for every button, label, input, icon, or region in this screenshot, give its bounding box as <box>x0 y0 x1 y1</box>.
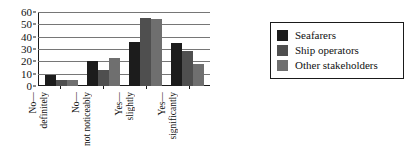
bar <box>87 61 98 86</box>
legend-item: Seafarers <box>277 28 397 43</box>
y-axis-tick-mark <box>33 86 36 87</box>
legend-swatch <box>277 60 288 71</box>
bar <box>151 19 162 86</box>
x-axis-tick-mark <box>103 86 104 89</box>
bar <box>56 80 67 86</box>
legend-item: Other stakeholders <box>277 58 397 73</box>
x-axis-tick-mark <box>60 86 61 89</box>
bar <box>182 51 193 86</box>
bar-group <box>45 12 78 86</box>
legend-swatch <box>277 45 288 56</box>
y-axis-tick-label: 40 <box>21 31 32 42</box>
chart-legend: SeafarersShip operatorsOther stakeholder… <box>270 22 404 79</box>
y-axis-tick-label: 60 <box>21 7 32 18</box>
bar-series-container <box>38 12 210 86</box>
y-axis-tick-mark <box>33 49 36 50</box>
bar <box>193 64 204 86</box>
legend-item-label: Other stakeholders <box>295 60 378 71</box>
y-axis-tick-label: 30 <box>21 44 32 55</box>
legend-item: Ship operators <box>277 43 397 58</box>
bar <box>98 70 109 86</box>
legend-item-label: Seafarers <box>295 30 336 41</box>
plot-area <box>38 12 210 86</box>
bar-group <box>87 12 120 86</box>
bar-chart-figure: 0102030405060 SeafarersShip operatorsOth… <box>0 0 418 160</box>
bar <box>67 80 78 86</box>
legend-swatch <box>277 30 288 41</box>
bar <box>129 42 140 86</box>
y-axis-tick-mark <box>33 61 36 62</box>
y-axis-tick-label: 20 <box>21 56 32 67</box>
y-axis-tick-label: 0 <box>27 81 33 92</box>
x-axis-tick-mark <box>146 86 147 89</box>
bar <box>45 75 56 86</box>
bar-group <box>129 12 162 86</box>
y-axis-tick-label: 10 <box>21 68 32 79</box>
y-axis-tick-mark <box>33 36 36 37</box>
legend-item-label: Ship operators <box>295 45 359 56</box>
bar <box>140 18 151 86</box>
x-axis-tick-label: Yes— significantly <box>157 92 221 140</box>
y-axis-tick-mark <box>33 24 36 25</box>
y-axis-tick-label: 50 <box>21 19 32 30</box>
bar <box>109 58 120 86</box>
bar-group <box>171 12 204 86</box>
bar <box>171 43 182 86</box>
y-axis-tick-mark <box>33 12 36 13</box>
y-axis: 0102030405060 <box>0 12 36 86</box>
y-axis-tick-mark <box>33 73 36 74</box>
x-axis-tick-mark <box>189 86 190 89</box>
